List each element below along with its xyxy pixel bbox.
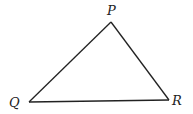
triangle-diagram: P Q R [0, 0, 193, 114]
edge-pq [29, 22, 111, 102]
edge-rp [111, 22, 169, 100]
edge-qr [29, 100, 169, 102]
vertex-label-r: R [171, 93, 182, 108]
vertex-label-q: Q [9, 95, 20, 110]
vertex-label-p: P [106, 3, 116, 18]
